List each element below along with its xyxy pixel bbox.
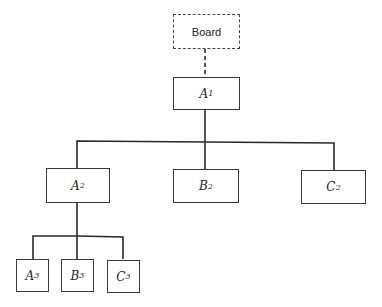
- node-b2: B2: [173, 169, 239, 203]
- node-c2: C2: [301, 170, 366, 204]
- node-a2-letter: A: [71, 179, 80, 193]
- node-a1: A1: [173, 77, 240, 110]
- node-c2-letter: C: [326, 180, 335, 194]
- node-b2-sub: 2: [208, 182, 213, 191]
- node-c3: C3: [107, 260, 140, 293]
- node-board-label: Board: [192, 26, 221, 38]
- node-a3-sub: 3: [34, 271, 39, 280]
- node-a1-letter: A: [200, 87, 209, 101]
- node-a3: A3: [16, 259, 49, 292]
- node-c3-sub: 3: [126, 272, 131, 281]
- node-b3-sub: 3: [79, 271, 84, 280]
- node-a2-sub: 2: [80, 181, 85, 190]
- node-c3-letter: C: [116, 270, 125, 284]
- node-c2-sub: 2: [336, 183, 341, 192]
- level3-bus-line: [33, 236, 123, 259]
- node-b3: B3: [61, 259, 94, 292]
- node-a1-sub: 1: [208, 89, 213, 98]
- node-b3-letter: B: [71, 269, 80, 283]
- node-a3-letter: A: [26, 269, 35, 283]
- node-b2-letter: B: [199, 179, 208, 193]
- node-board: Board: [173, 14, 240, 49]
- node-a2: A2: [46, 168, 110, 203]
